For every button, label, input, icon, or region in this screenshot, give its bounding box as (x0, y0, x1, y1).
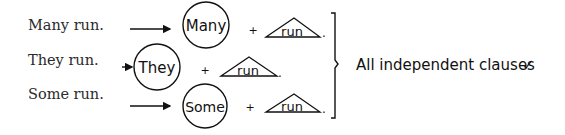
row-many: Many + run . (130, 2, 326, 48)
verb-label: run (237, 63, 259, 78)
row-some: Some + run . (130, 84, 326, 128)
right-brace-icon (331, 13, 338, 118)
conclusion-text: All independent clauses (356, 56, 535, 74)
period: . (322, 26, 326, 40)
clause-diagram: Many + run . They + run . Some + run . A… (0, 0, 565, 135)
subject-label: Many (186, 17, 227, 35)
subject-label: They (138, 59, 176, 77)
plus-sign: + (200, 64, 209, 77)
plus-sign: + (245, 101, 254, 114)
period: . (278, 66, 282, 80)
verb-label: run (281, 24, 303, 39)
plus-sign: + (248, 24, 257, 37)
check-mark-icon: ✓ (522, 56, 535, 74)
row-they: They + run . (122, 44, 282, 90)
period: . (322, 102, 326, 116)
subject-label: Some (185, 99, 225, 115)
verb-label: run (281, 99, 303, 114)
